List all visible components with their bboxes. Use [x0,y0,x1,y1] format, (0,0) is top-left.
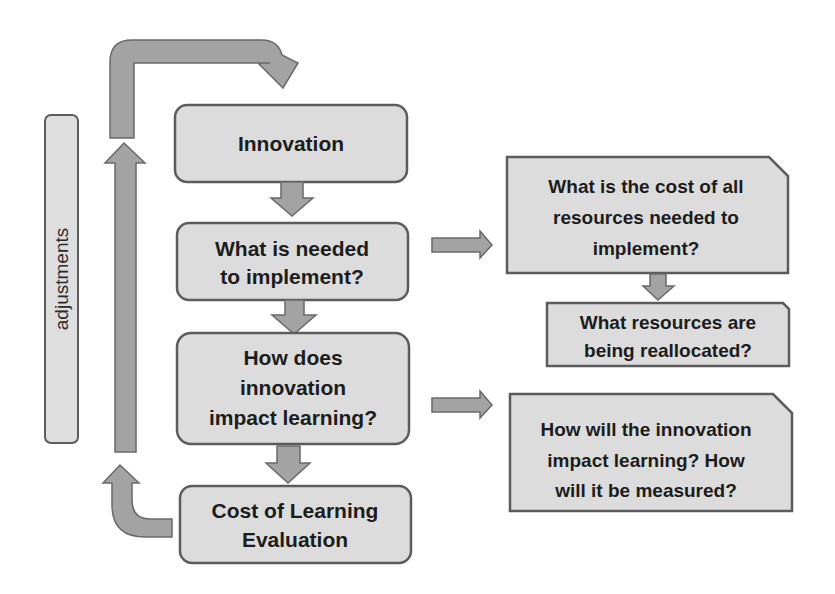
side-box-cost-line-2: resources needed to [553,207,739,228]
side-box-measure: How will the innovation impact learning?… [510,394,792,511]
side-box-measure-line-1: How will the innovation [540,419,751,440]
flow-box-impact-line-2: innovation [240,376,346,399]
flow-box-needed-line-1: What is needed [215,237,369,260]
side-box-measure-line-3: will it be measured? [554,480,737,501]
flow-box-impact-line-3: impact learning? [209,406,377,429]
flow-box-cost-evaluation: Cost of Learning Evaluation [180,486,411,563]
side-box-reallocated: What resources are being reallocated? [547,303,789,366]
flow-diagram: adjustments Innovation What is needed to… [0,0,835,594]
flow-box-impact-line-1: How does [243,346,342,369]
side-box-realloc-line-2: being reallocated? [584,340,752,361]
flow-box-cost-eval-line-2: Evaluation [242,528,348,551]
flow-box-needed-line-2: to implement? [220,265,364,288]
side-box-realloc-line-1: What resources are [580,312,756,333]
flow-box-cost-eval-line-1: Cost of Learning [212,499,379,522]
side-box-measure-line-2: impact learning? How [547,450,745,471]
adjustments-label-box: adjustments [45,115,78,443]
flow-box-innovation: Innovation [175,105,407,182]
flow-box-needed: What is needed to implement? [177,223,408,300]
flow-box-impact: How does innovation impact learning? [177,333,409,444]
down-arrow-side-icon [643,274,674,300]
right-arrow-2-icon [432,391,492,418]
feedback-arrow-bottom-icon [103,465,172,537]
flow-box-innovation-text: Innovation [238,132,344,155]
down-arrow-1-icon [271,182,313,216]
right-arrow-1-icon [432,231,492,258]
adjustments-label: adjustments [51,228,72,330]
side-box-cost-line-1: What is the cost of all [548,176,743,197]
side-box-cost-line-3: implement? [593,238,700,259]
down-arrow-2-icon [272,300,316,334]
side-box-cost-resources: What is the cost of all resources needed… [507,157,788,273]
down-arrow-3-icon [266,446,310,483]
feedback-arrow-up-icon [105,143,145,452]
